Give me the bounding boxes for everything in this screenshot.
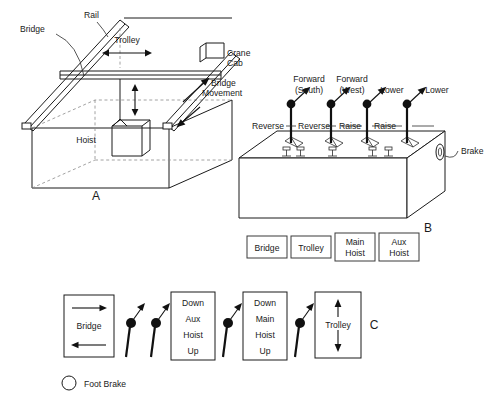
label-lower-2: Lower [425,85,449,95]
panel-b-id: B [424,221,432,235]
panel-c-lever-3 [223,303,242,357]
label-lower-1: Lower [380,85,404,95]
function-box-main-hoist-label-1: Main [346,237,365,247]
label-rail: Rail [84,10,99,20]
panel-c-group: Bridge Down Aux Hoist [62,292,379,390]
function-box-trolley-label: Trolley [298,243,324,253]
panel-a-leaders [56,22,108,76]
function-box-main-hoist-label-2: Hoist [345,248,365,258]
panel-c-bridge-label: Bridge [77,321,102,331]
panel-c-trolley-label: Trolley [325,320,351,330]
label-bridge-move-1: Bridge [211,78,236,88]
label-reverse-1: Reverse [252,121,284,131]
panel-c-bridge-box: Bridge [64,295,114,357]
panel-c-lever-2 [151,303,170,357]
panel-c-main-hoist-box: Down Main Hoist Up [243,292,287,360]
panel-c-main-line-1: Down [254,298,276,308]
crane-diagram-figure: Rail Bridge Trolley Crane Cab Bridge Mov… [0,0,502,400]
foot-brake-legend: Foot Brake [62,376,126,390]
panel-c-main-line-4: Up [260,346,271,356]
label-forward-south-1: Forward [293,74,325,84]
label-forward-west-1: Forward [336,74,368,84]
function-box-aux-hoist-label-2: Hoist [389,248,409,258]
foot-brake-legend-label: Foot Brake [84,379,126,389]
panel-a-id: A [92,189,100,203]
label-hoist: Hoist [76,135,96,145]
panel-c-main-line-2: Main [256,314,275,324]
panel-c-trolley-box: Trolley [315,292,361,358]
label-reverse-2: Reverse [298,121,330,131]
panel-c-aux-line-3: Hoist [183,330,203,340]
function-box-bridge-label: Bridge [255,243,280,253]
label-forward-south-2: (South) [295,85,323,95]
panel-b-group: Brake Forward (South) Forward (West) Low… [239,74,484,261]
label-forward-west-2: (West) [339,85,364,95]
function-box-aux-hoist-label-1: Aux [392,237,408,247]
trolley-direction-arrow [102,50,152,57]
label-crane-cab-2: Cab [227,58,243,68]
crane-cab [200,43,224,62]
label-crane-cab-1: Crane [227,48,251,58]
panel-c-aux-line-4: Up [188,346,199,356]
label-raise-2: Raise [374,121,396,131]
panel-c-main-line-3: Hoist [255,330,275,340]
panel-c-aux-line-1: Down [182,298,204,308]
panel-c-lever-4 [295,303,314,357]
hoist-assembly [112,79,150,156]
diagram-canvas: Rail Bridge Trolley Crane Cab Bridge Mov… [0,0,502,400]
label-brake: Brake [461,146,484,156]
brake-control [436,144,458,160]
panel-c-lever-1 [126,303,145,357]
foot-brake-symbol-icon [62,376,76,390]
function-boxes: Bridge Trolley Main Hoist Aux Hoist [247,233,419,261]
label-trolley: Trolley [114,35,140,45]
panel-c-aux-hoist-box: Down Aux Hoist Up [171,292,215,360]
label-bridge-move-2: Movement [202,88,243,98]
panel-c-id: C [370,318,379,332]
label-bridge: Bridge [20,24,45,34]
panel-a-group: Rail Bridge Trolley Crane Cab Bridge Mov… [20,10,251,203]
panel-c-aux-line-2: Aux [186,314,202,324]
label-raise-1: Raise [339,121,361,131]
